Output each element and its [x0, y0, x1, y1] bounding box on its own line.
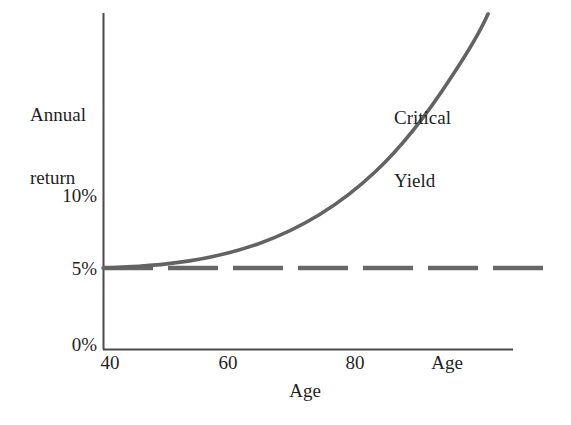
x-axis-title: Age — [289, 380, 321, 401]
critical-yield-label-line-2: Yield — [394, 170, 451, 191]
critical-yield-label-line-1: Critical — [394, 107, 451, 128]
x-tick-label-80: 80 — [346, 352, 365, 373]
y-tick-label-10: 10% — [62, 185, 97, 206]
y-tick-label-0: 0% — [72, 334, 97, 355]
x-tick-label-60: 60 — [219, 352, 238, 373]
x-tick-label-40: 40 — [101, 352, 120, 373]
critical-yield-label: Critical Yield — [394, 64, 451, 234]
x-axis-end-label: Age — [431, 352, 463, 373]
y-axis-title-line-1: Annual — [30, 104, 86, 125]
y-tick-label-5: 5% — [72, 258, 97, 279]
critical-yield-chart: Annual return 10% 5% 0% 40 60 80 Age Age… — [0, 0, 571, 425]
